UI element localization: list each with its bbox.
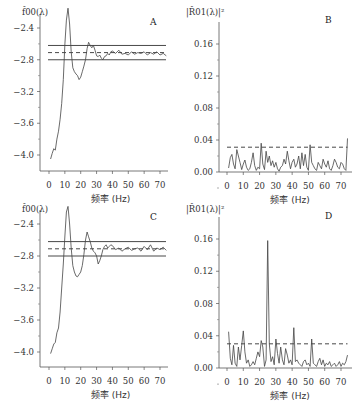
x-axis-label: 频率 (Hz)	[91, 193, 130, 204]
x-axis-label: 频率 (Hz)	[91, 389, 130, 400]
x-tick-label: 50	[123, 376, 134, 386]
panel-letter: A	[149, 17, 157, 27]
panel-letter: B	[325, 15, 332, 25]
x-tick-label: 50	[303, 377, 314, 387]
y-tick-label: 0.08	[194, 299, 213, 309]
panel-b: 0.000.040.080.120.16010203040506070频率 (H…	[186, 6, 352, 205]
x-tick-label: 70	[336, 377, 347, 387]
x-tick-label: 0	[224, 181, 229, 191]
y-tick-label: 0.12	[194, 71, 213, 81]
x-tick-label: 20	[254, 181, 265, 191]
y-tick-label: −3.2	[13, 87, 34, 97]
y-tick-label: −3.6	[13, 118, 34, 128]
y-tick-label: 0.12	[194, 266, 213, 276]
x-tick-label: 70	[155, 376, 166, 386]
x-tick-label: 60	[139, 376, 150, 386]
x-tick-label: 0	[224, 377, 229, 387]
y-tick-label: 0.16	[194, 39, 213, 49]
y-tick-label: −4.0	[13, 150, 34, 160]
data-series-line	[229, 138, 348, 171]
panel-letter: D	[325, 211, 332, 221]
y-axis-label: f̂00(λ)	[22, 6, 48, 17]
y-tick-label: −2.4	[13, 23, 34, 33]
x-tick-label: 70	[336, 181, 347, 191]
y-tick-label: −4.0	[13, 347, 34, 357]
y-tick-label: −3.2	[13, 283, 34, 293]
x-tick-label: 10	[59, 376, 70, 386]
y-tick-label: −2.8	[13, 251, 34, 261]
y-tick-label: 0.08	[194, 103, 213, 113]
y-tick-label: 0.04	[194, 331, 213, 341]
panel-a: −2.4−2.8−3.2−3.6−4.0010203040506070频率 (H…	[13, 6, 168, 204]
x-tick-label: 30	[91, 180, 102, 190]
y-axis-label: |R̂01(λ)|²	[186, 203, 224, 215]
x-tick-label: 20	[254, 377, 265, 387]
x-tick-label: 20	[75, 180, 86, 190]
panel-letter: C	[150, 212, 157, 222]
figure-four-panel: −2.4−2.8−3.2−3.6−4.0010203040506070频率 (H…	[0, 0, 358, 409]
x-tick-label: 10	[238, 181, 249, 191]
x-tick-label: 30	[91, 376, 102, 386]
x-tick-label: 0	[46, 180, 51, 190]
y-tick-label: −3.6	[13, 315, 34, 325]
x-tick-label: 60	[139, 180, 150, 190]
x-tick-label: 50	[303, 181, 314, 191]
x-tick-label: 60	[319, 377, 330, 387]
x-tick-label: 40	[287, 181, 298, 191]
panel-d: 0.000.040.080.120.16010203040506070频率 (H…	[186, 203, 352, 401]
x-tick-label: 0	[46, 376, 51, 386]
x-tick-label: 40	[107, 180, 118, 190]
y-tick-label: −2.8	[13, 55, 34, 65]
panel-c: −2.4−2.8−3.2−3.6−4.0010203040506070频率 (H…	[13, 203, 168, 400]
x-tick-label: 20	[75, 376, 86, 386]
x-tick-label: 40	[107, 376, 118, 386]
y-tick-label: 0.16	[194, 234, 213, 244]
y-tick-label: −2.4	[13, 219, 34, 229]
x-axis-label: 频率 (Hz)	[270, 194, 309, 205]
x-tick-label: 10	[59, 180, 70, 190]
y-tick-label: 0.00	[194, 363, 213, 373]
data-series-line	[51, 8, 167, 159]
y-tick-label: 0.04	[194, 135, 213, 145]
x-tick-label: 30	[270, 181, 281, 191]
y-axis-label: f̂00(λ)	[22, 203, 48, 214]
x-tick-label: 10	[238, 377, 249, 387]
x-tick-label: 30	[270, 377, 281, 387]
x-tick-label: 60	[319, 181, 330, 191]
x-tick-label: 50	[123, 180, 134, 190]
y-axis-label: |R̂01(λ)|²	[186, 6, 224, 18]
x-axis-label: 频率 (Hz)	[270, 390, 309, 401]
data-series-line	[51, 206, 167, 353]
y-tick-label: 0.00	[194, 167, 213, 177]
x-tick-label: 70	[155, 180, 166, 190]
data-series-line	[229, 241, 348, 367]
x-tick-label: 40	[287, 377, 298, 387]
